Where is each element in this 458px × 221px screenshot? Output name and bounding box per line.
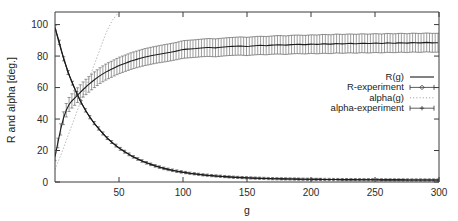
x-axis-title: g	[244, 204, 250, 216]
y-tick-label: 100	[31, 19, 48, 30]
y-axis-title: R and alpha [deg.]	[5, 57, 17, 143]
legend-label: alpha(g)	[369, 92, 404, 103]
x-tick-label: 250	[367, 187, 384, 198]
legend-label: R(g)	[386, 71, 404, 82]
y-tick-label: 60	[37, 82, 49, 93]
y-tick-label: 80	[37, 51, 49, 62]
x-tick-label: 100	[175, 187, 192, 198]
x-tick-label: 200	[303, 187, 320, 198]
y-tick-label: 0	[42, 177, 48, 188]
legend-label: R-experiment	[347, 81, 404, 92]
y-tick-label: 20	[37, 145, 49, 156]
x-tick-label: 300	[431, 187, 448, 198]
legend-label: alpha-experiment	[331, 102, 405, 113]
x-tick-label: 50	[113, 187, 125, 198]
y-tick-label: 40	[37, 114, 49, 125]
chart-figure: 50100150200250300020406080100 g R and al…	[0, 0, 458, 221]
x-tick-label: 150	[239, 187, 256, 198]
plot-canvas: 50100150200250300020406080100 g R and al…	[0, 0, 458, 221]
